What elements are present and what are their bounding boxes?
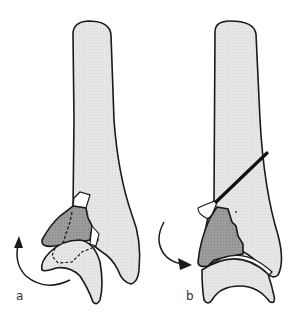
- rotation-arrow-b[interactable]: [159, 222, 182, 264]
- fracture-diagram: [0, 0, 295, 316]
- panel-a: [14, 21, 140, 304]
- marker-dot-b: [235, 211, 237, 213]
- arrowhead-icon-b: [178, 258, 192, 270]
- carpal-bone-a: [42, 240, 102, 304]
- panel-label-b: b: [186, 289, 194, 303]
- panel-b: [159, 21, 282, 303]
- panel-label-a: a: [16, 289, 23, 303]
- arrowhead-icon-a: [14, 236, 23, 248]
